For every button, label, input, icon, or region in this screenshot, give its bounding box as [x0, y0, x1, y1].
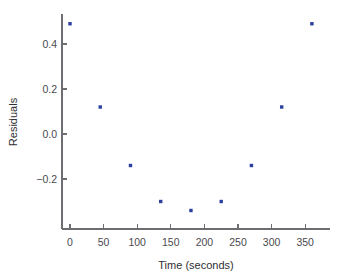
data-point: [280, 105, 283, 108]
data-point-group: [68, 22, 313, 212]
x-tick-label: 50: [98, 236, 110, 248]
y-tick-label: −0.2: [36, 173, 57, 185]
data-point: [220, 200, 223, 203]
data-point: [189, 209, 192, 212]
x-tick-label: 250: [229, 236, 247, 248]
residual-scatter-chart: 0.40.20.0−0.2 050100150200250300350 Time…: [0, 0, 341, 278]
data-point: [310, 22, 313, 25]
x-tick-label: 200: [196, 236, 214, 248]
data-point: [159, 200, 162, 203]
x-tick-label: 150: [162, 236, 180, 248]
y-axis-title: Residuals: [7, 97, 19, 146]
y-tick-label: 0.2: [42, 83, 57, 95]
plot-canvas: 0.40.20.0−0.2 050100150200250300350 Time…: [0, 0, 341, 278]
x-tick-label: 100: [128, 236, 146, 248]
x-axis-title: Time (seconds): [158, 259, 233, 271]
x-tick-group: 050100150200250300350: [67, 224, 314, 248]
x-tick-label: 300: [263, 236, 281, 248]
data-point: [99, 105, 102, 108]
x-tick-label: 350: [296, 236, 314, 248]
data-point: [250, 164, 253, 167]
data-point: [68, 22, 71, 25]
x-tick-label: 0: [67, 236, 73, 248]
data-point: [129, 164, 132, 167]
y-tick-label: 0.4: [42, 38, 57, 50]
y-tick-label: 0.0: [42, 128, 57, 140]
